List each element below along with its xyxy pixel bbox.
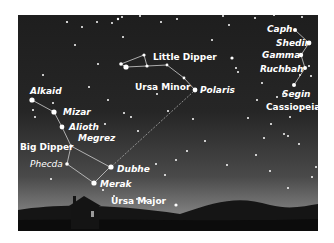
background-star [276,96,278,98]
label-polaris: Polaris [200,85,235,95]
background-star [237,71,239,73]
label-alioth: Alioth [68,122,99,132]
night-sky [18,15,318,231]
background-star [111,22,113,24]
label-megrez: Megrez [78,133,116,143]
background-star [226,164,228,166]
background-star [315,166,317,168]
background-star [156,93,158,95]
star-little-dipper-6 [183,77,186,80]
background-star [155,163,157,165]
background-star [97,63,99,65]
star-ruchbah [303,66,307,70]
background-star [130,116,132,118]
background-star [254,17,256,19]
label-merak: Merak [100,179,133,189]
background-star [102,189,104,191]
label-ursa-minor: Ursa Minor [135,82,191,92]
background-star [164,174,166,176]
label-ursa-major: Ursa Major [111,196,167,206]
star-map: Alkaid Mizar Alioth Megrez Big Dipper Ph… [0,0,334,243]
label-dubhe: Dubhe [117,164,150,174]
background-star [50,178,52,180]
star-little-dipper-2 [123,64,128,69]
background-star [123,112,125,114]
background-star [34,116,36,118]
background-star [211,39,213,41]
background-star [204,140,206,142]
label-gamma: Gamma [262,50,300,60]
background-star [52,102,54,104]
background-star [42,74,44,76]
background-star [255,154,257,156]
background-star [263,137,265,139]
star-dubhe [108,164,113,169]
star-merak [91,180,96,185]
background-star [139,15,141,17]
background-star [308,65,310,67]
background-star [273,14,275,16]
background-star [96,21,98,23]
house-window [91,211,94,217]
label-phecda: Phecda [30,159,63,169]
star-alioth [60,125,65,130]
background-star [88,86,90,88]
label-ruchbah: Ruchbah [260,64,304,74]
background-star [311,176,313,178]
background-star [289,116,291,118]
star-alkaid [29,97,34,102]
background-star [117,18,119,20]
background-star [287,135,289,137]
star-mizar [51,109,56,114]
background-star [104,123,106,125]
label-big-dipper: Big Dipper [20,142,74,152]
background-star [222,15,224,17]
star-little-dipper-5 [166,64,169,67]
background-star [310,75,312,77]
star-phecda [65,162,69,166]
background-star [261,82,263,84]
label-shedir: Shedir [276,38,310,48]
background-star [107,99,109,101]
label-alkaid: Alkaid [29,86,62,96]
background-star [228,24,230,26]
foreground-ground [18,219,318,231]
background-star [81,26,83,28]
background-star [230,56,233,59]
background-star [74,44,76,46]
background-star [247,117,249,119]
background-star [298,143,300,145]
background-star [167,110,169,112]
background-star [301,16,303,18]
background-star [287,187,289,189]
star-little-dipper-1 [119,62,123,66]
background-star [283,133,285,135]
background-star [176,18,178,20]
background-star [235,67,237,69]
background-star [160,21,162,23]
label-caph: Caph [267,24,293,34]
label-little-dipper: Little Dipper [153,52,217,62]
background-star [121,16,123,18]
star-caph [293,28,297,32]
label-cassiopeia: Cassiopeia [266,102,320,112]
star-little-dipper-3 [142,53,145,56]
label-segin: Segin [282,89,311,99]
star-segin [292,83,296,87]
label-mizar: Mizar [63,107,91,117]
background-star [270,123,272,125]
background-star [256,99,258,101]
background-star [32,109,34,111]
background-star [137,130,139,132]
background-star [186,150,188,152]
background-star [175,159,177,161]
background-star [66,21,68,23]
background-star [192,118,194,120]
background-star [269,170,271,172]
background-star [122,36,124,38]
star-little-dipper-4 [145,64,148,67]
background-star [174,203,177,206]
star-polaris [193,88,198,93]
